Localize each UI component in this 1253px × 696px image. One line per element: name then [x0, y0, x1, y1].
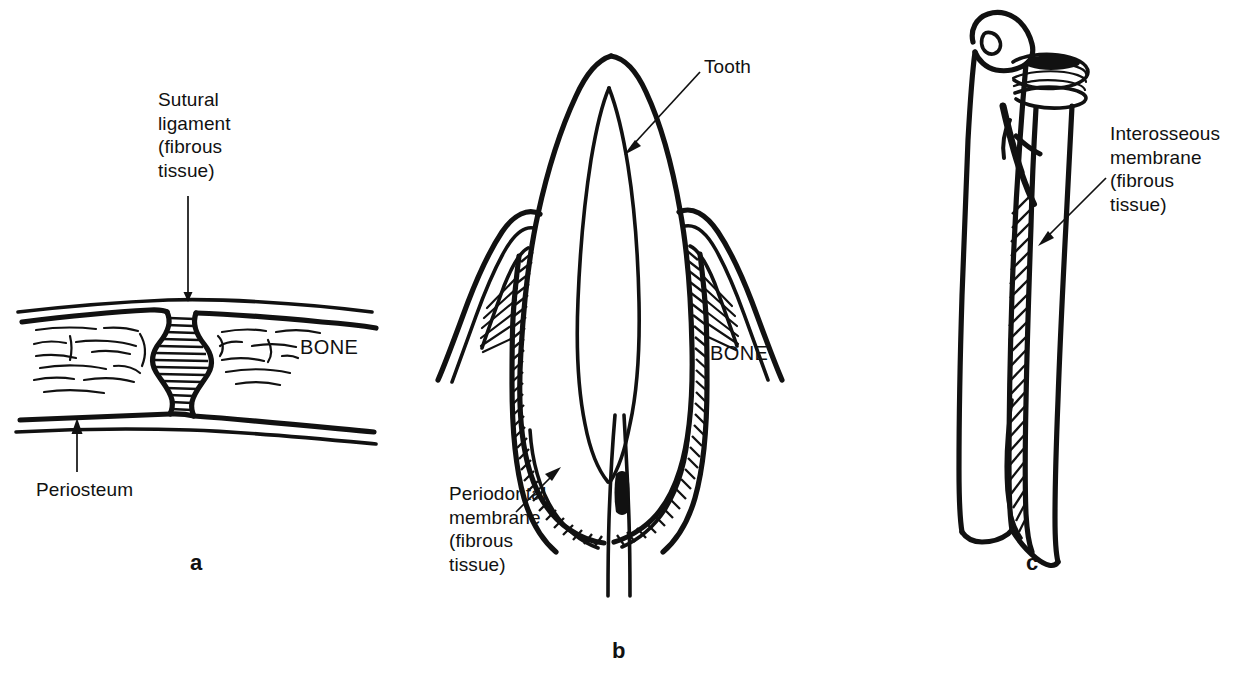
periosteum-top-line	[18, 300, 372, 312]
panel-letter-a: a	[190, 550, 202, 576]
panel-letter-b: b	[612, 638, 625, 664]
left-bone-head-notch	[982, 32, 1001, 54]
right-bone-shaft-inner	[1025, 108, 1036, 552]
panel-letter-c: c	[1026, 550, 1038, 576]
interosseous-leader	[1046, 178, 1106, 238]
figure-root: Sutural ligament (fibrous tissue) BONE P…	[0, 0, 1253, 696]
sutural-ligament-label: Sutural ligament (fibrous tissue)	[158, 88, 308, 182]
left-bone-distal-end	[962, 530, 1012, 542]
periodontal-membrane-label: Periodontal membrane (fibrous tissue)	[449, 482, 639, 576]
sutural-ligament-hatching	[154, 318, 209, 410]
bone-label-panel-a: BONE	[300, 336, 358, 359]
periosteum-bottom-line	[16, 429, 376, 444]
periosteum-label: Periosteum	[36, 478, 133, 502]
alveolar-bone-right	[663, 254, 707, 552]
panel-c-artwork	[959, 12, 1106, 565]
left-bone-shaft-outer	[959, 52, 975, 532]
bone-top-surface-left	[22, 310, 167, 322]
bone-trabeculae-left	[34, 328, 145, 393]
tooth-label: Tooth	[704, 55, 751, 79]
bone-right-suture-edge	[192, 313, 212, 416]
pulp-cavity-left	[577, 88, 609, 482]
panel-a-artwork	[16, 196, 376, 472]
right-bone-shaft-outer	[1055, 106, 1072, 562]
bone-top-surface-right	[196, 313, 376, 328]
bone-left-suture-edge	[153, 312, 173, 414]
bone-label-panel-b: BONE	[710, 342, 768, 365]
interosseous-membrane-label: Interosseous membrane (fibrous tissue)	[1110, 122, 1253, 216]
periodontal-arrowhead	[545, 467, 561, 481]
tooth-outline-right	[611, 56, 692, 542]
